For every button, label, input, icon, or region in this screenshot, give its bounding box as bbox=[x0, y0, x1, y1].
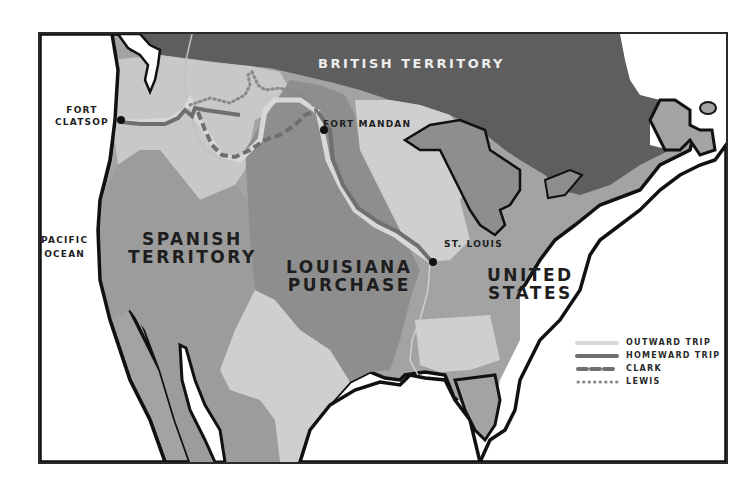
label-pacific-line1: PACIFIC bbox=[41, 236, 88, 245]
label-spanish-territory: SPANISH TERRITORY bbox=[128, 231, 257, 267]
label-fort-clatsop: FORT CLATSOP bbox=[55, 106, 109, 128]
legend-item-outward-trip: OUTWARD TRIP bbox=[575, 336, 721, 349]
label-fort-clatsop-line2: CLATSOP bbox=[55, 118, 109, 127]
legend-item-clark: CLARK bbox=[575, 362, 721, 375]
point-fort-clatsop bbox=[117, 116, 125, 124]
label-louisiana-line2: PURCHASE bbox=[286, 277, 412, 295]
label-fort-clatsop-line1: FORT bbox=[55, 106, 109, 115]
island bbox=[700, 102, 716, 114]
legend-swatch-lewis bbox=[575, 379, 619, 384]
label-louisiana-purchase: LOUISIANA PURCHASE bbox=[286, 259, 412, 295]
point-st-louis bbox=[429, 258, 437, 266]
legend-swatch-clark bbox=[575, 366, 619, 371]
label-british-territory: BRITISH TERRITORY bbox=[318, 57, 505, 71]
legend-label-clark: CLARK bbox=[626, 364, 662, 373]
legend-item-homeward-trip: HOMEWARD TRIP bbox=[575, 349, 721, 362]
legend-item-lewis: LEWIS bbox=[575, 375, 721, 388]
legend-label-homeward: HOMEWARD TRIP bbox=[626, 351, 721, 360]
label-st-louis: ST. LOUIS bbox=[444, 240, 503, 249]
label-fort-mandan: FORT MANDAN bbox=[323, 120, 411, 129]
label-pacific-ocean: PACIFIC OCEAN bbox=[41, 236, 88, 260]
region-southeast-light bbox=[415, 315, 500, 372]
legend-swatch-homeward bbox=[575, 353, 619, 358]
label-us-line2: STATES bbox=[487, 285, 574, 303]
legend: OUTWARD TRIP HOMEWARD TRIP CLARK LEWIS bbox=[575, 336, 721, 388]
legend-swatch-outward bbox=[575, 340, 619, 345]
legend-label-outward: OUTWARD TRIP bbox=[626, 338, 711, 347]
map-canvas bbox=[0, 0, 738, 492]
label-pacific-line2: OCEAN bbox=[41, 250, 88, 259]
label-spanish-line2: TERRITORY bbox=[128, 249, 257, 267]
legend-label-lewis: LEWIS bbox=[626, 377, 661, 386]
label-united-states: UNITED STATES bbox=[487, 267, 574, 303]
